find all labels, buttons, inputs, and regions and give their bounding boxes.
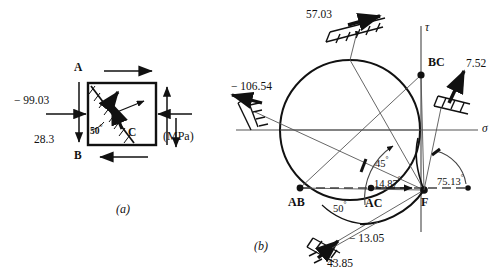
angle-45-degree: ° [386, 155, 389, 164]
point-label-ab: AB [288, 196, 305, 208]
caption-b: (b) [254, 240, 268, 252]
stress-figure: A B C − 99.03 28.3 50° (MPa) (a) [0, 0, 501, 278]
angle-1487-degree: ° [398, 175, 401, 184]
value-top-5703: 57.03 [306, 9, 332, 21]
axis-label-sigma: σ [482, 123, 488, 135]
value-bottom-left-4385: 43.85 [327, 258, 353, 270]
point-label-ac: AC [365, 197, 382, 209]
point-bc-marker [417, 71, 424, 78]
value-right-752: 7.52 [466, 58, 486, 70]
point-label-bc: BC [428, 56, 445, 68]
angle-7513-value: 75.13 [437, 176, 461, 187]
angle-label-50-mohr: 50° [333, 201, 347, 214]
plane-symbol-left [238, 98, 268, 130]
stress-arrow-right [449, 71, 464, 103]
angle-label-1487: 14.87° [374, 176, 401, 189]
value-bottom-right-1305: − 13.05 [349, 233, 384, 245]
angle-label-7513: 75.13° [437, 174, 464, 187]
point-ab-marker [297, 185, 304, 192]
angle-label-45: 45° [375, 156, 389, 169]
pointer-line-top [350, 36, 356, 60]
point-right-dash-end-marker [465, 185, 471, 191]
value-left-10654: − 106.54 [231, 81, 272, 93]
axis-label-tau: τ [425, 22, 429, 34]
angle-1487-value: 14.87 [374, 178, 398, 189]
mohr-circle-graphics [0, 0, 501, 278]
angle-7513-degree: ° [461, 173, 464, 182]
angle-50-mohr-degree: ° [344, 200, 347, 209]
stress-arrow-left [232, 95, 262, 103]
angle-45-value: 45 [375, 158, 386, 169]
angle-50-mohr-value: 50 [333, 203, 344, 214]
point-label-f: F [421, 196, 428, 208]
